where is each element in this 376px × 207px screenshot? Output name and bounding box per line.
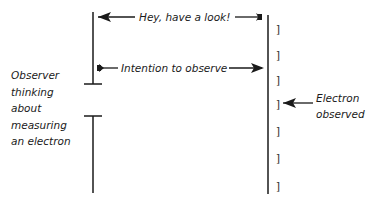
observer-label-line: Observer (11, 67, 71, 84)
observer-lifeline-lower (84, 116, 102, 193)
state-bracket: ] (275, 24, 282, 36)
state-bracket: ] (275, 153, 282, 165)
state-bracket: ] (275, 75, 282, 87)
observer-lifeline-upper (84, 12, 102, 84)
state-bracket: ] (275, 126, 282, 138)
observer-label-line: about (11, 100, 71, 117)
state-bracket: ] (275, 181, 282, 193)
observed-arrow-icon (283, 98, 313, 108)
state-bracket: ] (275, 50, 282, 62)
state-bracket: ] (275, 99, 282, 111)
observer-label-line: an electron (11, 133, 71, 150)
look-message-label: Hey, have a look! (139, 10, 230, 24)
observed-message-label: Electron observed (316, 90, 365, 122)
observer-label-line: measuring (11, 117, 71, 134)
observer-electron-diagram: Observer thinking about measuring an ele… (0, 0, 376, 207)
intention-message-label: Intention to observe (121, 61, 227, 75)
observer-label: Observer thinking about measuring an ele… (11, 67, 71, 150)
observer-label-line: thinking (11, 84, 71, 101)
observed-label-line: observed (316, 106, 365, 122)
observed-label-line: Electron (316, 90, 365, 106)
